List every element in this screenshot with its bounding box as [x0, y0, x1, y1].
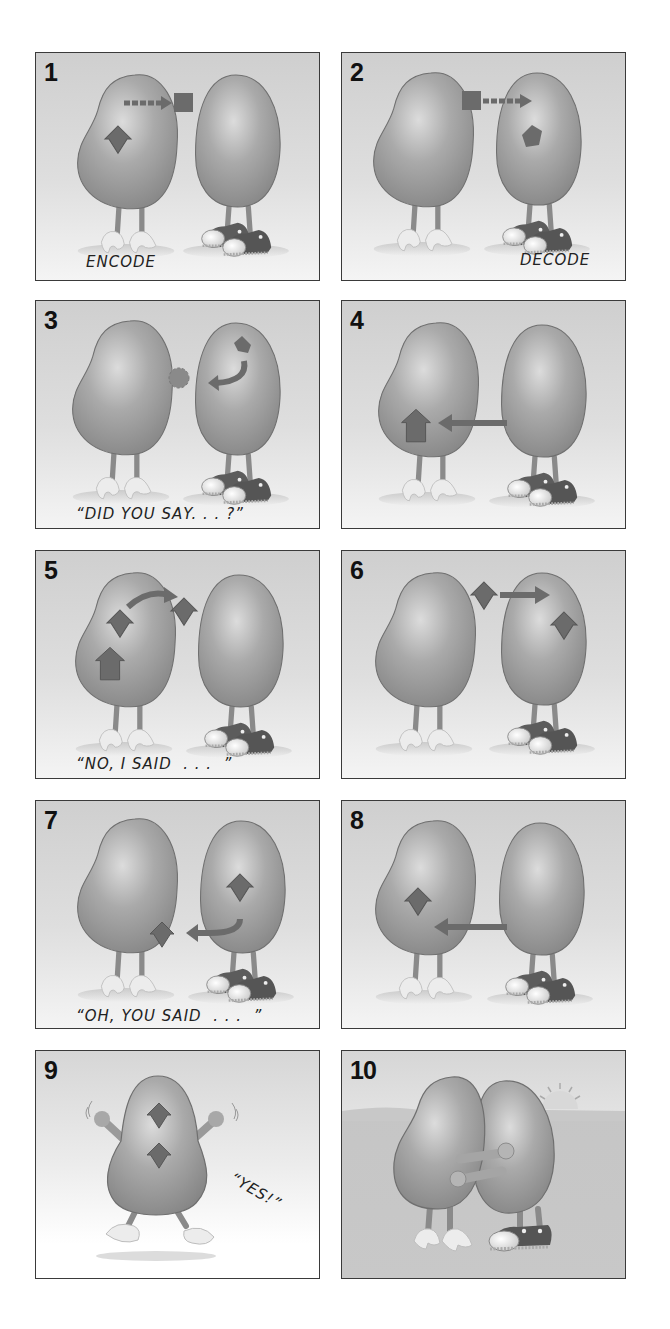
fuzzy-message-icon [169, 368, 189, 388]
panel-6-illustration [342, 551, 626, 779]
panel-number: 7 [44, 806, 57, 835]
square-message-icon [174, 93, 193, 112]
panel-7-illustration [36, 801, 320, 1029]
panel-number: 6 [350, 556, 363, 585]
panel-number: 9 [44, 1056, 57, 1085]
panel-caption: “OH, YOU SAID . . . ” [76, 1007, 262, 1025]
panel-1-illustration [36, 53, 320, 281]
panel-1-encode: 1 ENCODE [35, 52, 320, 281]
panel-10: 10 [341, 1050, 626, 1279]
panel-number: 3 [44, 306, 57, 335]
diamond-message-icon [471, 582, 497, 609]
panel-5: 5 “NO, I SAID . . . ” [35, 550, 320, 779]
panel-5-illustration [36, 551, 320, 779]
panel-9: 9 “YES!” [35, 1050, 320, 1279]
panel-caption: “DID YOU SAY. . . ?” [76, 505, 244, 523]
panel-4-illustration [342, 301, 626, 529]
panel-7: 7 “OH, YOU SAID . . . ” [35, 800, 320, 1029]
panel-9-illustration [36, 1051, 320, 1279]
panel-6: 6 [341, 550, 626, 779]
panel-10-illustration [342, 1051, 626, 1279]
panel-number: 1 [44, 58, 57, 87]
panel-number: 5 [44, 556, 57, 585]
panel-3: 3 “DID YOU SAY. . . ?” [35, 300, 320, 529]
square-message-icon [462, 91, 481, 110]
panel-4: 4 [341, 300, 626, 529]
panel-8-illustration [342, 801, 626, 1029]
panel-caption: DECODE [520, 251, 590, 269]
panel-2-illustration [342, 53, 626, 281]
panel-8: 8 [341, 800, 626, 1029]
panel-caption: “NO, I SAID . . . ” [76, 755, 232, 773]
sun-icon [540, 1083, 580, 1109]
panel-number: 8 [350, 806, 363, 835]
panel-number: 4 [350, 306, 363, 335]
panel-number: 10 [350, 1056, 376, 1085]
panel-caption: ENCODE [86, 253, 156, 271]
panel-3-illustration [36, 301, 320, 529]
panel-2-decode: 2 DECODE [341, 52, 626, 281]
panel-number: 2 [350, 58, 363, 87]
